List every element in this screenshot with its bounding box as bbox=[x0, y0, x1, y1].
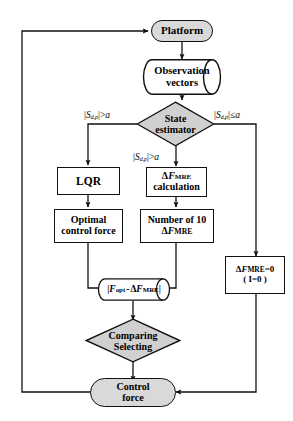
node-optimal-line2: control force bbox=[61, 226, 115, 237]
node-df-calculation-line2: calculation bbox=[153, 182, 200, 193]
node-optimal-control-force[interactable]: Optimal control force bbox=[54, 209, 123, 243]
node-lqr[interactable]: LQR bbox=[57, 167, 120, 195]
node-number-of-10[interactable]: Number of 10 ΔFMRE bbox=[140, 209, 214, 243]
node-state-estimator-line2: estimator bbox=[155, 124, 196, 135]
node-platform-label: Platform bbox=[161, 25, 203, 37]
diff-close: | bbox=[159, 284, 161, 294]
df-calc-sub: MRE bbox=[175, 173, 191, 181]
diff-f-sub: opt bbox=[116, 286, 126, 293]
edge-label-middle-branch: |Sd,p|>a bbox=[133, 152, 159, 162]
diff-fm-sub: MRE bbox=[143, 286, 159, 293]
flowchart-canvas: Platform Observation vectors State estim… bbox=[0, 0, 293, 421]
node-observation-line2: vectors bbox=[154, 77, 209, 89]
edge-label-left-branch: |Sd,p|>a bbox=[84, 110, 110, 120]
node-force-difference[interactable]: |Fopt-ΔFMRE| bbox=[98, 278, 170, 301]
node-observation-line1: Observation bbox=[154, 65, 209, 77]
node-df-zero-line2: ( I=0 ) bbox=[236, 275, 275, 285]
diff-minus: - bbox=[126, 284, 129, 294]
number-sub: MRE bbox=[174, 227, 192, 236]
node-comparing-line2: Selecting bbox=[109, 341, 158, 352]
df-calc-f: F bbox=[168, 170, 175, 181]
node-number-line1: Number of 10 bbox=[148, 215, 207, 226]
left-branch-sub: d,p bbox=[91, 114, 98, 120]
node-df-zero[interactable]: ΔFMRE=0 ( I=0 ) bbox=[225, 256, 285, 294]
node-state-estimator-line1: State bbox=[155, 113, 196, 124]
node-platform[interactable]: Platform bbox=[151, 20, 213, 42]
node-comparing-selecting[interactable]: Comparing Selecting bbox=[85, 318, 181, 363]
edge-label-right-branch: |Sd,p|≤a bbox=[214, 110, 240, 120]
right-branch-value: a bbox=[235, 110, 240, 120]
node-lqr-label: LQR bbox=[76, 175, 101, 187]
node-observation-vectors[interactable]: Observation vectors bbox=[143, 59, 221, 95]
node-df-calculation[interactable]: ΔFMRE calculation bbox=[146, 167, 207, 197]
middle-branch-sub: d,p bbox=[140, 156, 147, 162]
node-number-line2: ΔFMRE bbox=[148, 226, 207, 237]
middle-branch-value: a bbox=[154, 152, 159, 162]
node-state-estimator[interactable]: State estimator bbox=[136, 101, 215, 147]
node-comparing-line1: Comparing bbox=[109, 330, 158, 341]
node-control-force-line1: Control bbox=[116, 382, 149, 393]
node-control-force-line2: force bbox=[116, 393, 149, 404]
node-force-difference-expr: |Fopt-ΔFMRE| bbox=[107, 284, 160, 294]
dfzero-sub: MRE bbox=[247, 265, 264, 274]
dfzero-post: =0 bbox=[265, 264, 275, 274]
left-branch-value: a bbox=[105, 110, 110, 120]
right-branch-sub: d,p bbox=[221, 114, 228, 120]
node-control-force[interactable]: Control force bbox=[90, 378, 176, 407]
